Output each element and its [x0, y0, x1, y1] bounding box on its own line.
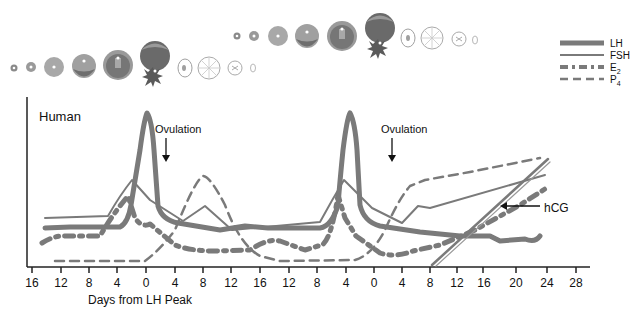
legend-p4-label: P4	[610, 74, 621, 87]
x-tick-label: 0	[371, 276, 378, 290]
x-axis-tick-labels: 16 12 8 4 0 4 8 12 16 12 8 4 0 4 8 12 16…	[25, 276, 583, 290]
x-tick-label: 4	[172, 276, 179, 290]
x-tick-label: 16	[253, 276, 267, 290]
legend-lh-label: LH	[610, 38, 623, 49]
x-tick-label: 12	[54, 276, 68, 290]
hormone-chart: LH FSH E2 P4 16 12 8 4 0 4	[0, 0, 639, 331]
x-tick-label: 4	[343, 276, 350, 290]
x-tick-label: 20	[509, 276, 523, 290]
x-tick-label: 16	[477, 276, 491, 290]
species-label: Human	[39, 109, 81, 124]
x-tick-label: 8	[200, 276, 207, 290]
hcg-label: hCG	[544, 201, 569, 215]
arrow-down-icon	[162, 155, 170, 162]
follicle-illustration-cycle-1	[11, 41, 256, 87]
x-tick-label: 12	[450, 276, 464, 290]
x-tick-label: 12	[224, 276, 238, 290]
x-tick-label: 8	[86, 276, 93, 290]
x-axis-title: Days from LH Peak	[88, 293, 193, 307]
x-tick-label: 8	[427, 276, 434, 290]
x-tick-label: 8	[314, 276, 321, 290]
legend-fsh-label: FSH	[610, 50, 630, 61]
ovulation-label-1: Ovulation	[155, 123, 201, 135]
x-tick-label: 28	[569, 276, 583, 290]
ovulation-label-2: Ovulation	[381, 123, 427, 135]
arrow-down-icon	[388, 155, 396, 162]
series-lh	[45, 113, 540, 241]
x-tick-label: 24	[540, 276, 554, 290]
chart-legend: LH FSH E2 P4	[560, 38, 630, 87]
data-series	[42, 113, 550, 266]
x-tick-label: 0	[143, 276, 150, 290]
x-tick-label: 4	[399, 276, 406, 290]
x-tick-label: 4	[114, 276, 121, 290]
x-axis-ticks	[32, 267, 576, 273]
series-e2	[42, 187, 548, 255]
follicle-illustration-cycle-2	[234, 13, 478, 59]
x-tick-label: 12	[282, 276, 296, 290]
x-tick-label: 16	[25, 276, 39, 290]
